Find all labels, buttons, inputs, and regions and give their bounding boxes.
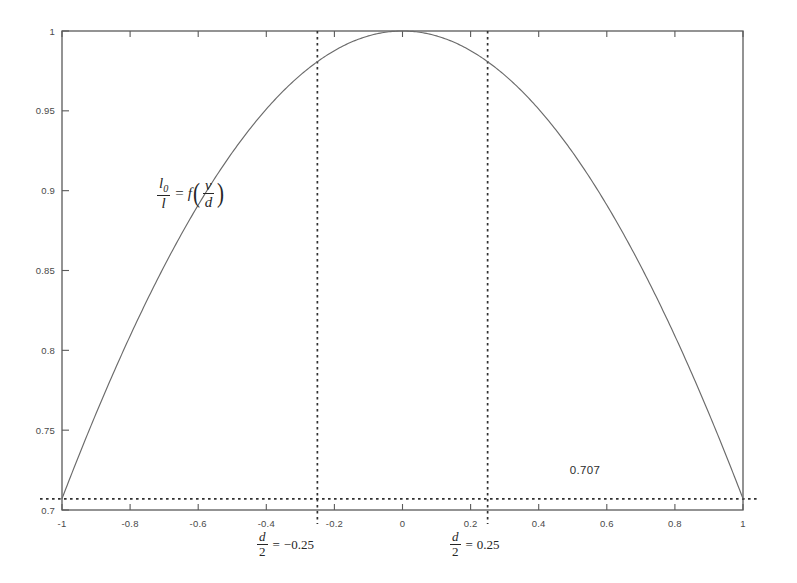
left-marker-fraction: d 2 — [257, 530, 268, 559]
formula-equals-sign: = — [175, 186, 183, 201]
y-tick-label: 0.7 — [41, 505, 55, 516]
x-tick-label: 0.4 — [532, 518, 546, 529]
y-tick-label: 0.85 — [36, 265, 55, 276]
plot-frame — [62, 31, 743, 510]
x-tick-label: -0.6 — [190, 518, 207, 529]
left-marker-numerator: d — [257, 530, 268, 545]
x-tick-label: -0.2 — [326, 518, 343, 529]
right-marker-denominator: 2 — [450, 545, 461, 559]
left-marker-annotation: d 2 = −0.25 — [256, 530, 314, 559]
right-marker-value: 0.25 — [477, 538, 500, 551]
y-tick-label: 0.95 — [36, 105, 55, 116]
data-curve — [62, 31, 743, 499]
right-marker-annotation: d 2 = 0.25 — [449, 530, 500, 559]
formula-close-paren: ) — [217, 183, 224, 204]
y-tick-label: 0.9 — [41, 185, 55, 196]
threshold-value-label: 0.707 — [570, 464, 600, 476]
x-tick-label: 0.2 — [464, 518, 478, 529]
vertical-reference-lines — [317, 31, 487, 524]
right-marker-numerator: d — [450, 530, 461, 545]
curve-formula-annotation: l0 l = f ( v d ) — [156, 176, 225, 212]
formula-argument-fraction: v d — [203, 178, 215, 211]
x-tick-label: -0.4 — [258, 518, 275, 529]
x-tick-label: 0.8 — [668, 518, 682, 529]
y-tick-label: 0.8 — [41, 345, 55, 356]
x-tick-label: 1 — [740, 518, 745, 529]
formula-open-paren: ( — [193, 183, 200, 204]
chart-figure: -1-0.8-0.6-0.4-0.200.20.40.60.81 0.70.75… — [0, 0, 797, 583]
left-marker-denominator: 2 — [257, 545, 268, 559]
y-tick-label: 1 — [50, 26, 55, 37]
x-tick-label: -1 — [58, 518, 67, 529]
formula-denominator: l — [160, 196, 168, 212]
formula-function-name: f — [188, 186, 192, 201]
x-tick-label: 0 — [400, 518, 405, 529]
y-tick-label: 0.75 — [36, 425, 55, 436]
y-axis-ticks: 0.70.750.80.850.90.951 — [36, 26, 69, 516]
formula-numerator-subscript: 0 — [163, 183, 168, 194]
x-axis-ticks: -1-0.8-0.6-0.4-0.200.20.40.60.81 — [58, 31, 746, 529]
chart-canvas: -1-0.8-0.6-0.4-0.200.20.40.60.81 0.70.75… — [0, 0, 797, 583]
left-marker-value: −0.25 — [284, 538, 314, 551]
left-marker-equals-sign: = — [273, 538, 280, 551]
right-marker-equals-sign: = — [466, 538, 473, 551]
x-tick-label: -0.8 — [122, 518, 139, 529]
formula-ratio-fraction: l0 l — [157, 176, 170, 212]
x-tick-label: 0.6 — [600, 518, 614, 529]
right-marker-fraction: d 2 — [450, 530, 461, 559]
formula-arg-numerator: v — [203, 178, 214, 195]
formula-arg-denominator: d — [203, 194, 215, 210]
